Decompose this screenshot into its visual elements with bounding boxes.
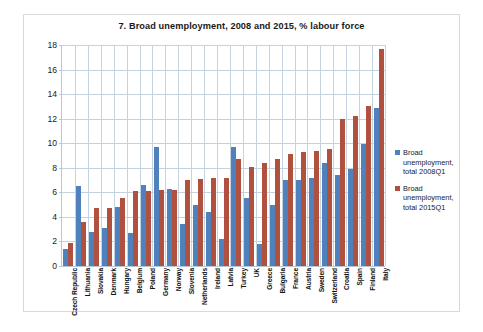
bar [301,152,306,266]
legend-label: Broad unemployment, total 2008Q1 [403,148,459,177]
x-axis-category: Latvia [216,267,229,325]
plot-wrapper: 024681012141618 [61,45,385,267]
bar [159,190,164,266]
legend-label: Broad unemployment, total 2015Q1 [403,184,459,213]
bar [146,191,151,266]
y-axis-tick-label: 16 [47,65,57,75]
bar [120,198,125,266]
bar [340,119,345,266]
bar-group [230,45,243,266]
bar-group [243,45,256,266]
x-axis-category: Croatia [333,267,346,325]
bar [133,191,138,266]
bar-group [320,45,333,266]
x-axis-category: Hungary [113,267,126,325]
bar [211,178,216,266]
x-axis-category: Austria [294,267,307,325]
bar-group [62,45,75,266]
y-axis-tick-label: 0 [52,261,57,271]
y-axis-tick-label: 12 [47,114,57,124]
bar [249,167,254,266]
gridline-vertical [385,45,386,266]
x-axis-category: Switzerland [320,267,333,325]
bar-series-group [62,45,385,266]
bar [327,149,332,266]
x-axis-category: Turkey [229,267,242,325]
bar-group [101,45,114,266]
x-axis-category: Sweden [307,267,320,325]
bar-group [295,45,308,266]
x-axis-category: Ireland [203,267,216,325]
bar-group [178,45,191,266]
x-axis-category: Lithuania [74,267,87,325]
x-axis-category: Denmark [100,267,113,325]
bar-group [372,45,385,266]
y-axis-tick-label: 4 [52,212,57,222]
y-axis-tick-label: 2 [52,236,57,246]
bar-group [346,45,359,266]
chart-title: 7. Broad unemployment, 2008 and 2015, % … [24,21,459,31]
x-axis-category: Bulgaria [268,267,281,325]
x-axis-category: Slovakia [87,267,100,325]
legend-swatch-2008-icon [395,150,400,155]
legend-item: Broad unemployment, total 2015Q1 [395,184,459,213]
bar [288,154,293,266]
bar [366,106,371,266]
x-axis-category: Italy [372,267,385,325]
x-axis-category: Netherlands [191,267,204,325]
x-axis-category: France [281,267,294,325]
x-axis-category: Germany [152,267,165,325]
bar [262,163,267,266]
y-axis-tick-label: 18 [47,40,57,50]
bar [314,151,319,266]
bar [185,180,190,266]
x-axis-category: Czech Republic [61,267,74,325]
bar [379,49,384,266]
bar [353,116,358,266]
bar-group [152,45,165,266]
bar-group [333,45,346,266]
x-axis-labels: Czech RepublicLithuaniaSlovakiaDenmarkHu… [61,267,385,325]
bar [275,159,280,266]
bar [172,190,177,266]
bar-group [269,45,282,266]
bar [224,178,229,266]
x-axis-category: UK [242,267,255,325]
bar-group [191,45,204,266]
bar-group [127,45,140,266]
x-axis-category: Norway [165,267,178,325]
plot-area: 024681012141618 [61,45,385,267]
bar-group [75,45,88,266]
chart-container: 7. Broad unemployment, 2008 and 2015, % … [23,14,460,312]
bar-group [282,45,295,266]
bar-group [256,45,269,266]
bar-group [204,45,217,266]
bar [198,179,203,266]
chart-legend: Broad unemployment, total 2008Q1 Broad u… [395,148,459,220]
bar [81,222,86,266]
x-axis-tick-label: Italy [382,268,389,281]
x-axis-category: Spain [346,267,359,325]
x-axis-category: Belgium [126,267,139,325]
y-axis-tick-label: 14 [47,89,57,99]
y-axis-tick-label: 8 [52,163,57,173]
legend-swatch-2015-icon [395,186,400,191]
x-axis-category: Slovenia [178,267,191,325]
x-axis-category: Finland [359,267,372,325]
bar-group [217,45,230,266]
legend-item: Broad unemployment, total 2008Q1 [395,148,459,177]
x-axis-category: Greece [255,267,268,325]
x-axis-category: Poland [139,267,152,325]
bar-group [359,45,372,266]
bar [107,208,112,266]
bar-group [114,45,127,266]
bar [68,243,73,266]
y-axis-tick-label: 6 [52,187,57,197]
bar-group [165,45,178,266]
bar-group [140,45,153,266]
y-axis-tick-label: 10 [47,138,57,148]
bar [236,159,241,266]
bar-group [308,45,321,266]
bar-group [88,45,101,266]
bar [94,208,99,266]
